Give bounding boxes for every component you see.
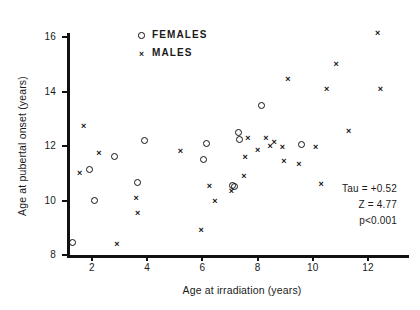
- legend-label-females: FEMALES: [152, 29, 207, 40]
- x-axis-label: Age at irradiation (years): [142, 284, 342, 296]
- data-point-male: [244, 134, 252, 142]
- x-tick: [257, 256, 259, 261]
- stat-p: p<0.001: [342, 213, 397, 229]
- data-point-female: [69, 239, 76, 246]
- x-tick-label: 4: [137, 263, 157, 273]
- x-tick: [91, 256, 93, 261]
- y-tick-label: 16: [38, 32, 56, 42]
- data-point-male: [205, 182, 213, 190]
- data-point-male: [376, 85, 384, 93]
- y-axis-line: [67, 33, 70, 257]
- y-axis-label: Age at pubertal onset (years): [16, 76, 28, 216]
- data-point-male: [278, 143, 286, 151]
- statistics-annotation: Tau = +0.52 Z = 4.77 p<0.001: [342, 181, 397, 229]
- x-tick-label: 8: [248, 263, 268, 273]
- data-point-male: [241, 153, 249, 161]
- cross-icon: [138, 50, 145, 57]
- x-tick: [367, 256, 369, 261]
- data-point-male: [134, 209, 142, 217]
- data-point-male: [197, 226, 205, 234]
- data-point-female: [111, 153, 118, 160]
- data-point-male: [345, 127, 353, 135]
- x-tick: [312, 256, 314, 261]
- data-point-female: [91, 197, 98, 204]
- data-point-male: [317, 180, 325, 188]
- data-point-male: [332, 60, 340, 68]
- data-point-male: [374, 29, 382, 37]
- data-point-male: [323, 85, 331, 93]
- data-point-female: [86, 166, 93, 173]
- data-point-male: [132, 194, 140, 202]
- stat-tau: Tau = +0.52: [342, 181, 397, 197]
- x-tick: [201, 256, 203, 261]
- x-axis-line: [67, 255, 409, 258]
- x-tick-label: 2: [82, 263, 102, 273]
- data-point-female: [258, 102, 265, 109]
- data-point-male: [76, 169, 84, 177]
- data-point-female: [235, 129, 242, 136]
- y-tick-label: 10: [38, 196, 56, 206]
- data-point-male: [295, 160, 303, 168]
- y-tick-label: 8: [38, 250, 56, 260]
- data-point-female: [134, 179, 141, 186]
- data-point-female: [141, 137, 148, 144]
- x-tick-label: 10: [303, 263, 323, 273]
- data-point-female: [298, 141, 305, 148]
- x-tick: [146, 256, 148, 261]
- y-tick: [62, 145, 67, 147]
- data-point-male: [80, 122, 88, 130]
- x-tick-label: 12: [358, 263, 378, 273]
- data-point-female: [203, 140, 210, 147]
- y-tick: [62, 36, 67, 38]
- y-tick-label: 12: [38, 141, 56, 151]
- y-tick: [62, 91, 67, 93]
- data-point-female: [200, 156, 207, 163]
- data-point-male: [113, 240, 121, 248]
- legend-label-males: MALES: [152, 47, 193, 58]
- data-point-female: [236, 136, 243, 143]
- scatter-plot: 810121416 24681012 Age at pubertal onset…: [0, 0, 420, 310]
- y-axis-label-wrapper: Age at pubertal onset (years): [16, 36, 28, 256]
- data-point-male: [240, 172, 248, 180]
- data-point-male: [284, 75, 292, 83]
- y-tick: [62, 200, 67, 202]
- data-point-male: [227, 187, 235, 195]
- data-point-male: [280, 157, 288, 165]
- data-point-male: [312, 143, 320, 151]
- x-tick-label: 6: [192, 263, 212, 273]
- data-point-male: [95, 149, 103, 157]
- open-circle-icon: [138, 32, 145, 39]
- y-tick: [62, 254, 67, 256]
- data-point-male: [254, 146, 262, 154]
- y-tick-label: 14: [38, 87, 56, 97]
- stat-z: Z = 4.77: [342, 197, 397, 213]
- data-point-male: [270, 138, 278, 146]
- data-point-male: [176, 147, 184, 155]
- data-point-male: [211, 197, 219, 205]
